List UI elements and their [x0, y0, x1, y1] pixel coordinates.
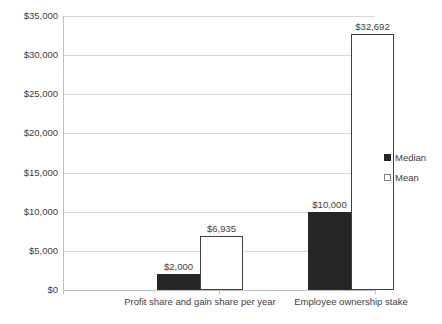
- y-axis-tick-label: $25,000: [3, 89, 58, 99]
- bar-value-label: $2,000: [149, 261, 208, 272]
- y-axis-tick-label: $35,000: [3, 11, 58, 21]
- legend-item-label: Mean: [395, 172, 419, 183]
- bar-chart: $0$5,000$10,000$15,000$20,000$25,000$30,…: [0, 0, 442, 324]
- y-axis-tick-label: $5,000: [3, 246, 58, 256]
- x-axis-tick: [375, 290, 376, 294]
- y-axis-tick-label: $0: [3, 285, 58, 295]
- gridline: [63, 133, 375, 134]
- y-axis-tick-labels: $0$5,000$10,000$15,000$20,000$25,000$30,…: [0, 0, 58, 324]
- y-axis-tick-label: $30,000: [3, 50, 58, 60]
- plot-area: [63, 16, 375, 290]
- bar-value-label: $32,692: [343, 21, 402, 32]
- legend-item-median[interactable]: Median: [384, 152, 442, 163]
- gridline: [63, 16, 375, 17]
- hollow-square-icon: [384, 174, 391, 181]
- y-axis-tick-label: $15,000: [3, 168, 58, 178]
- bar-median-1: [308, 212, 351, 290]
- chart-legend: MedianMean: [384, 152, 442, 192]
- x-axis-tick: [219, 290, 220, 294]
- gridline: [63, 173, 375, 174]
- x-axis-category-label: Employee ownership stake: [261, 296, 441, 308]
- y-axis-line: [63, 16, 64, 290]
- gridline: [63, 55, 375, 56]
- legend-item-mean[interactable]: Mean: [384, 172, 442, 183]
- gridline: [63, 94, 375, 95]
- filled-square-icon: [384, 154, 391, 161]
- bar-value-label: $10,000: [300, 199, 359, 210]
- y-axis-tick-label: $20,000: [3, 128, 58, 138]
- bar-median-0: [157, 274, 200, 290]
- legend-item-label: Median: [395, 152, 426, 163]
- y-axis-tick-label: $10,000: [3, 207, 58, 217]
- x-axis-tick: [63, 290, 64, 294]
- bar-value-label: $6,935: [192, 223, 251, 234]
